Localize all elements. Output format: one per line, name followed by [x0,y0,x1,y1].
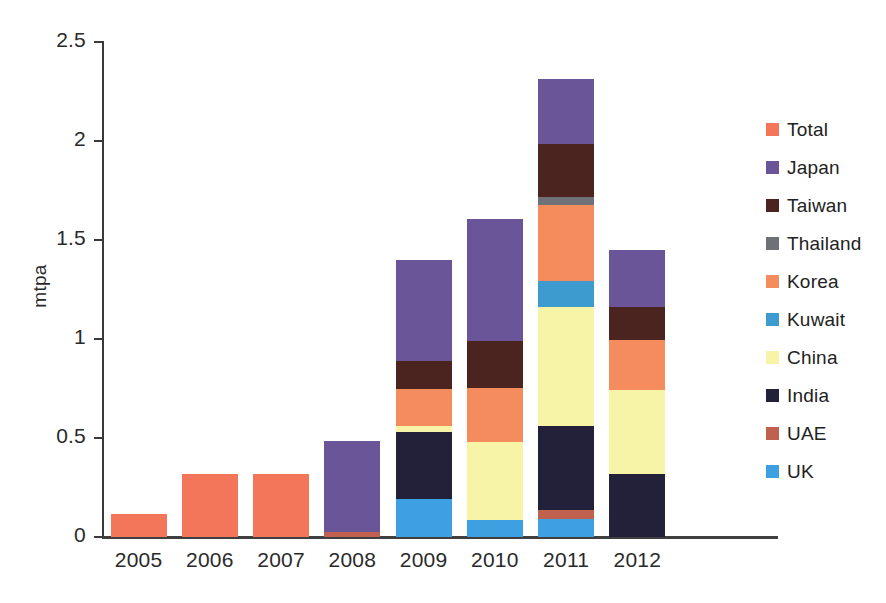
y-tick-mark [94,41,103,43]
legend-swatch-icon [766,389,779,402]
y-tick-label-text: 0.5 [0,424,86,448]
y-tick-mark [94,239,103,241]
bar-segment-japan[interactable] [538,79,594,144]
bar-stack [324,441,380,537]
y-tick-label: 2 [0,127,86,153]
bar-segment-total[interactable] [253,474,309,537]
bar-segment-india[interactable] [538,426,594,510]
legend-swatch-icon [766,275,779,288]
legend-item-thailand[interactable]: Thailand [766,224,886,262]
bar-segment-taiwan[interactable] [609,307,665,340]
y-tick-label: 2.5 [0,28,86,54]
chart-legend: TotalJapanTaiwanThailandKoreaKuwaitChina… [766,110,886,490]
bar-segment-japan[interactable] [324,441,380,532]
bar-segment-uk[interactable] [467,520,523,537]
bar-segment-uk[interactable] [538,519,594,537]
y-tick-label: 0.5 [0,424,86,450]
bar-segment-kuwait[interactable] [538,281,594,308]
y-tick-label-text: 1 [0,325,86,349]
legend-item-kuwait[interactable]: Kuwait [766,300,886,338]
y-tick-mark [94,338,103,340]
legend-label: Taiwan [787,196,847,215]
legend-label: Total [787,120,828,139]
legend-item-india[interactable]: India [766,376,886,414]
legend-label: Thailand [787,234,861,253]
y-tick-label: 1 [0,325,86,351]
y-tick-label-text: 2 [0,127,86,151]
chart-container: mtpa 00.511.522.5 2005200620072008200920… [0,0,886,603]
bar-segment-taiwan[interactable] [396,361,452,389]
bar-segment-taiwan[interactable] [538,144,594,197]
bar-segment-total[interactable] [111,514,167,537]
legend-label: UAE [787,424,827,443]
legend-item-taiwan[interactable]: Taiwan [766,186,886,224]
bar-segment-china[interactable] [609,390,665,474]
legend-item-uae[interactable]: UAE [766,414,886,452]
legend-item-total[interactable]: Total [766,110,886,148]
legend-label: UK [787,462,814,481]
bar-segment-uae[interactable] [324,532,380,537]
bar-segment-japan[interactable] [609,250,665,307]
bar-segment-thailand[interactable] [538,197,594,205]
bar-segment-japan[interactable] [467,219,523,341]
bar-stack [609,250,665,537]
legend-item-china[interactable]: China [766,338,886,376]
bar-segment-japan[interactable] [396,260,452,361]
y-tick-label-text: 1.5 [0,226,86,250]
legend-label: Korea [787,272,839,291]
legend-swatch-icon [766,427,779,440]
bar-segment-korea[interactable] [538,205,594,280]
legend-label: India [787,386,829,405]
legend-swatch-icon [766,237,779,250]
y-tick-mark [94,437,103,439]
legend-label: Japan [787,158,840,177]
bar-segment-china[interactable] [538,307,594,426]
legend-label: China [787,348,838,367]
legend-swatch-icon [766,161,779,174]
y-tick-label: 1.5 [0,226,86,252]
legend-swatch-icon [766,465,779,478]
bar-stack [467,219,523,537]
x-tick-label-2012: 2012 [592,548,682,572]
bar-segment-uae[interactable] [538,510,594,519]
y-tick-mark [94,140,103,142]
legend-swatch-icon [766,199,779,212]
bar-segment-taiwan[interactable] [467,341,523,388]
bar-segment-korea[interactable] [396,389,452,427]
legend-swatch-icon [766,313,779,326]
bar-segment-korea[interactable] [467,388,523,442]
legend-swatch-icon [766,123,779,136]
bar-segment-india[interactable] [609,474,665,537]
y-tick-label-text: 2.5 [0,28,86,52]
bar-stack [111,514,167,537]
legend-item-uk[interactable]: UK [766,452,886,490]
bar-segment-uk[interactable] [396,499,452,537]
legend-item-japan[interactable]: Japan [766,148,886,186]
y-tick-label: 0 [0,523,86,549]
y-tick-label-text: 0 [0,523,86,547]
legend-label: Kuwait [787,310,845,329]
bar-stack [396,260,452,537]
bar-segment-india[interactable] [396,432,452,499]
plot-area [103,42,673,537]
legend-swatch-icon [766,351,779,364]
bar-segment-china[interactable] [467,442,523,520]
legend-item-korea[interactable]: Korea [766,262,886,300]
bar-stack [538,79,594,537]
bar-segment-total[interactable] [182,474,238,537]
bar-stack [253,474,309,537]
bar-segment-korea[interactable] [609,340,665,390]
bar-stack [182,474,238,537]
